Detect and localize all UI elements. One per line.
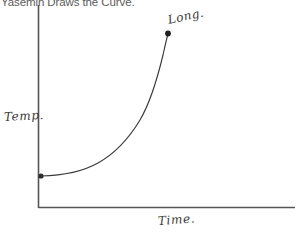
x-axis-label: Time. — [158, 211, 196, 228]
curve-end-point — [165, 31, 171, 37]
figure-canvas: Yasemin Draws the Curve. Temp. Time. Lon… — [0, 0, 306, 236]
curve-path — [41, 34, 168, 176]
y-axis-label: Temp. — [4, 108, 45, 124]
hand-drawn-plot — [0, 0, 306, 236]
curve-start-point — [38, 173, 43, 178]
